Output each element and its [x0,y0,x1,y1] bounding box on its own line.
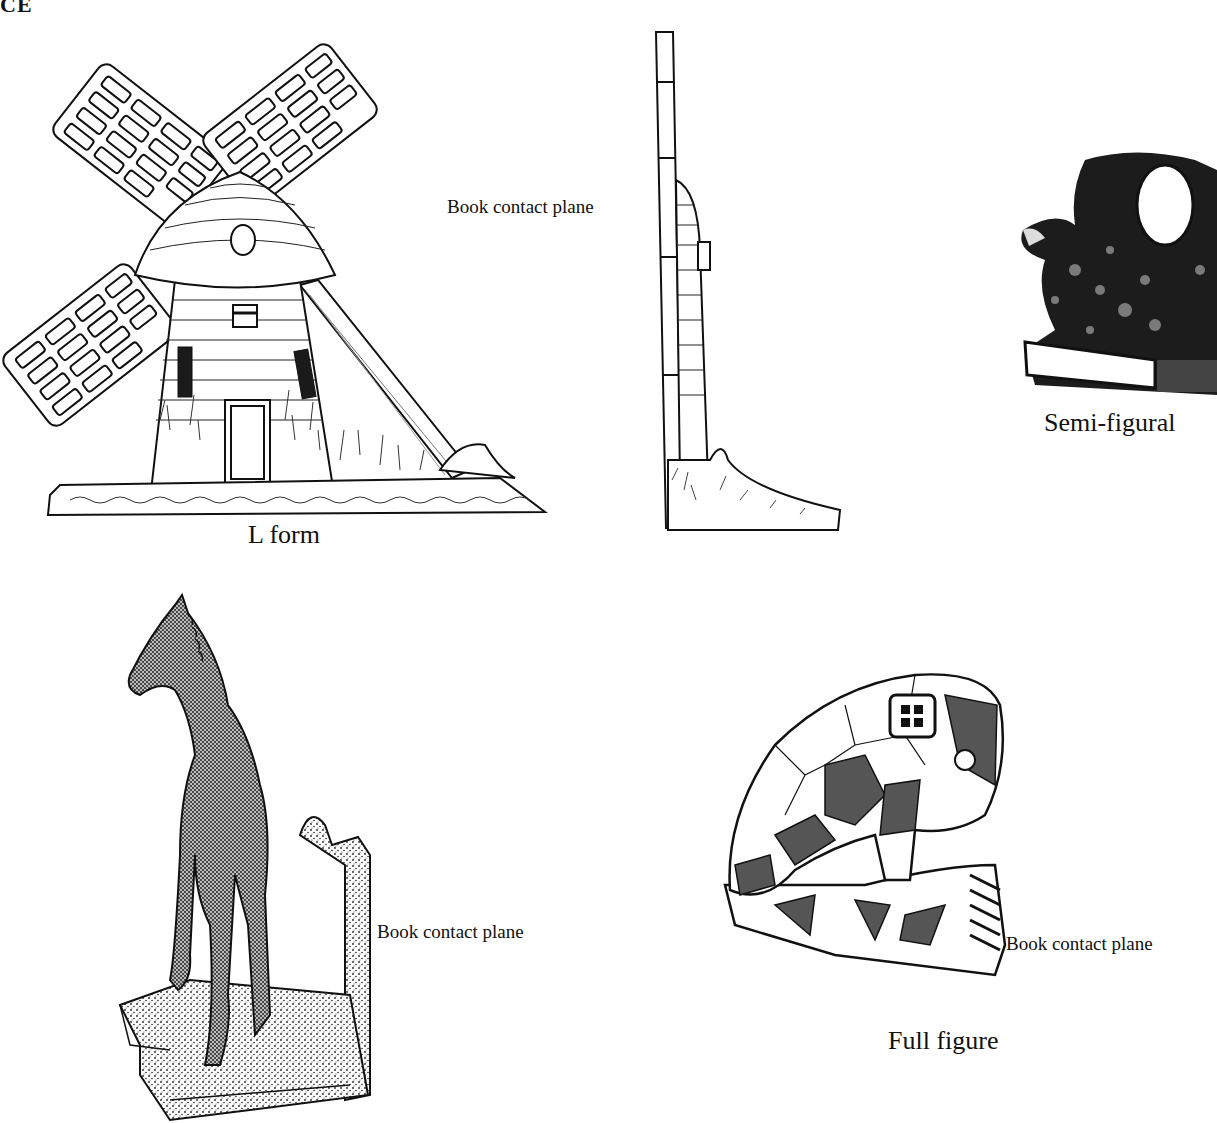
full-figure-caption: Full figure [888,1026,999,1056]
windmill-side-profile [640,20,860,540]
base-profile [668,449,840,530]
elephant-illustration [715,665,1015,985]
windmill-sail-lower-left [0,260,181,429]
semi-figural-illustration [1015,150,1217,400]
oval-aperture [1137,165,1193,245]
book-contact-plane-label-2: Book contact plane [377,921,524,943]
windmill-round-window [231,225,255,255]
horse-illustration [100,595,380,1123]
book-contact-plane-label-1: Book contact plane [447,196,594,218]
windmill-base [48,478,545,515]
horse-base [120,980,368,1120]
elephant-emblem [890,695,935,737]
windmill-window [233,305,257,327]
l-form-caption: L form [248,520,320,550]
windmill-illustration [0,0,560,530]
windmill-shutter-left [178,347,192,397]
book-contact-plane-label-3: Book contact plane [1006,933,1153,955]
semi-figural-caption: Semi-figural [1044,408,1175,438]
